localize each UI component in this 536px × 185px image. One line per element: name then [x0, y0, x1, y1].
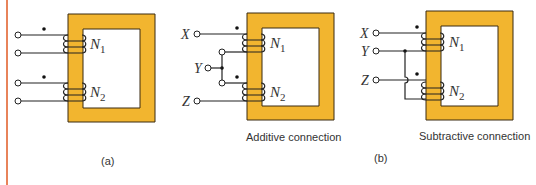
polarity-dot — [235, 75, 239, 79]
svg-text:Y: Y — [194, 61, 204, 76]
polarity-dot — [235, 26, 239, 30]
caption-subtractive: Subtractive connection — [419, 130, 530, 142]
svg-text:Z: Z — [361, 73, 369, 88]
svg-text:N1: N1 — [89, 36, 106, 55]
core-subtractive — [426, 11, 513, 120]
polarity-dot — [415, 25, 419, 29]
panel-a-transformer: N1 N2 — [15, 14, 155, 122]
core-additive — [247, 13, 334, 120]
terminal-z — [194, 98, 200, 104]
svg-text:N1: N1 — [448, 34, 465, 53]
svg-text:N2: N2 — [448, 83, 465, 102]
svg-text:N2: N2 — [269, 84, 286, 103]
svg-text:X: X — [359, 26, 369, 41]
terminal — [15, 32, 21, 38]
svg-text:Y: Y — [361, 44, 371, 59]
core-a — [68, 14, 155, 122]
terminal-y — [205, 65, 211, 71]
polarity-dot — [42, 75, 46, 79]
svg-text:X: X — [180, 27, 190, 42]
svg-text:N1: N1 — [269, 35, 286, 54]
svg-text:Z: Z — [182, 94, 190, 109]
polarity-dot — [415, 72, 419, 76]
terminal — [15, 50, 21, 56]
terminal — [15, 80, 21, 86]
panel-additive-transformer: X Y Z N1 N2 — [180, 13, 334, 120]
terminal-x — [373, 30, 379, 36]
terminal-x — [194, 31, 200, 37]
panel-subtractive-transformer: X Y Z N1 N2 — [359, 11, 513, 120]
terminal-z — [373, 77, 379, 83]
caption-a: (a) — [101, 155, 114, 167]
svg-text:N2: N2 — [89, 84, 106, 103]
caption-b: (b) — [374, 152, 387, 164]
transformer-diagrams: N1 N2 X Y Z N1 N2 — [0, 0, 536, 185]
caption-additive: Additive connection — [246, 131, 341, 143]
terminal — [15, 98, 21, 104]
polarity-dot — [42, 27, 46, 31]
terminal-y — [373, 48, 379, 54]
